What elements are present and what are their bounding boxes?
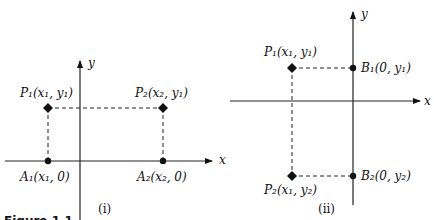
panel-caption-i: (i) — [98, 202, 111, 216]
coordinate-diagrams: y x P₁(x₁, y₁) P₂(x₂, y₁) A₁(x₁, 0) A₂(x… — [0, 0, 434, 220]
point-p1 — [287, 63, 297, 73]
label-a2: A₂(x₂, 0) — [136, 170, 187, 184]
point-b1 — [350, 65, 356, 71]
point-b2 — [350, 173, 356, 179]
y-axis-label: y — [360, 7, 368, 21]
x-axis-label: x — [424, 94, 431, 108]
label-b2: B₂(0, y₂) — [360, 169, 411, 183]
label-b1: B₁(0, y₁) — [360, 61, 411, 75]
label-p1: P₁(x₁, y₁) — [19, 86, 73, 100]
label-p2: P₂(x₂, y₁) — [134, 86, 188, 100]
label-p1: P₁(x₁, y₁) — [263, 45, 317, 59]
point-p2 — [287, 171, 297, 181]
point-a2 — [160, 158, 166, 164]
panel-ii: y x P₁(x₁, y₁) B₁(0, y₁) P₂(x₁, y₂) B₂(0… — [230, 7, 431, 216]
figure-caption: Figure 1.1 — [4, 214, 73, 220]
x-axis-label: x — [219, 153, 226, 167]
panel-i: y x P₁(x₁, y₁) P₂(x₂, y₁) A₁(x₁, 0) A₂(x… — [5, 56, 226, 220]
y-axis-label: y — [87, 56, 95, 70]
label-p2: P₂(x₁, y₂) — [263, 183, 317, 197]
label-a1: A₁(x₁, 0) — [19, 170, 70, 184]
panel-caption-ii: (ii) — [318, 202, 335, 216]
point-p2 — [158, 103, 168, 113]
point-a1 — [45, 158, 51, 164]
point-p1 — [43, 103, 53, 113]
